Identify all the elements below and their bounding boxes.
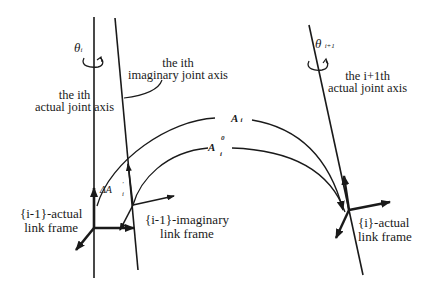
label-line: {i-1}-imaginary xyxy=(145,213,229,227)
A-i-label: A i xyxy=(231,112,242,124)
A-symbol: A xyxy=(208,141,215,153)
theta-symbol: θ xyxy=(315,36,321,51)
dA-superscript: ' xyxy=(122,180,124,188)
ith-imaginary-joint-axis xyxy=(115,18,138,270)
label-line: imaginary joint axis xyxy=(128,69,228,81)
theta-subscript: i+1 xyxy=(325,42,335,50)
label-line: link frame xyxy=(358,230,412,244)
theta-i1-label: θ i+1 xyxy=(315,36,335,52)
frame-prev-imaginary-label: {i-1}-imaginary link frame xyxy=(145,213,229,241)
label-line: actual joint axis xyxy=(35,101,114,113)
label-line: link frame xyxy=(145,227,229,241)
A-subscript: i xyxy=(240,116,242,124)
i1th-actual-axis-label: the i+1th actual joint axis xyxy=(328,70,407,94)
label-line: link frame xyxy=(20,221,82,235)
A-i0-label: A 0 i xyxy=(208,141,215,153)
theta-subscript: i xyxy=(80,46,82,54)
label-line: {i}-actual xyxy=(358,216,412,230)
theta-i-label: θi xyxy=(74,40,82,56)
frame-i-actual-label: {i}-actual link frame xyxy=(358,216,412,244)
frame-prev-actual-label: {i-1}-actual link frame xyxy=(20,207,82,235)
theta-i-rotation-icon xyxy=(83,58,103,67)
joint-axis-diagram xyxy=(0,0,436,292)
label-line: {i-1}-actual xyxy=(20,207,82,221)
dA-i-label: ΔA ' i xyxy=(100,184,112,195)
A-subscript: i xyxy=(220,150,222,158)
imaginary-axis-leader xyxy=(124,80,162,98)
dA-subscript: i xyxy=(122,190,124,198)
ith-imaginary-axis-label: the ith imaginary joint axis xyxy=(128,57,228,81)
A-symbol: A xyxy=(231,112,238,124)
dA-symbol: ΔA xyxy=(100,184,112,195)
label-line: actual joint axis xyxy=(328,82,407,94)
ith-actual-axis-label: the ith actual joint axis xyxy=(35,89,114,113)
A-i-arc xyxy=(97,118,215,206)
A-superscript: 0 xyxy=(221,134,225,142)
